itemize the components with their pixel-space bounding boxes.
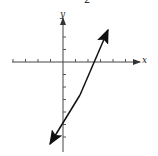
y-axis-label: y — [60, 9, 65, 19]
graph-svg — [0, 0, 158, 156]
x-axis-label: x — [142, 55, 147, 65]
coordinate-plane: 2 x y — [0, 0, 158, 156]
figure-number-label: 2 — [84, 0, 90, 5]
